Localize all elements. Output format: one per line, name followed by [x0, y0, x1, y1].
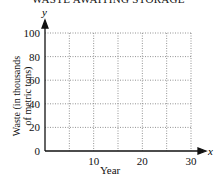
y-axis-label: Waste (in thousands of metric tons): [11, 36, 33, 156]
x-axis-var: x: [207, 145, 213, 157]
x-axis-label: Year: [100, 164, 120, 176]
x-axis-arrow-icon: [198, 148, 206, 154]
x-tick-label: 20: [137, 155, 149, 167]
y-axis-arrow-icon: [42, 20, 48, 28]
x-tick-label: 10: [88, 155, 100, 167]
y-axis-var: y: [41, 6, 47, 18]
y-tick-label: 0: [35, 145, 41, 157]
x-tick-label: 30: [186, 155, 198, 167]
